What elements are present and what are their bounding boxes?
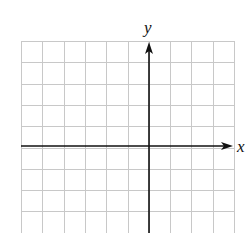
x-axis-label: x <box>236 137 245 156</box>
y-axis-label: y <box>142 18 152 37</box>
coordinate-plane: x y <box>0 0 246 233</box>
axes <box>21 42 233 233</box>
grid-lines <box>21 41 235 233</box>
